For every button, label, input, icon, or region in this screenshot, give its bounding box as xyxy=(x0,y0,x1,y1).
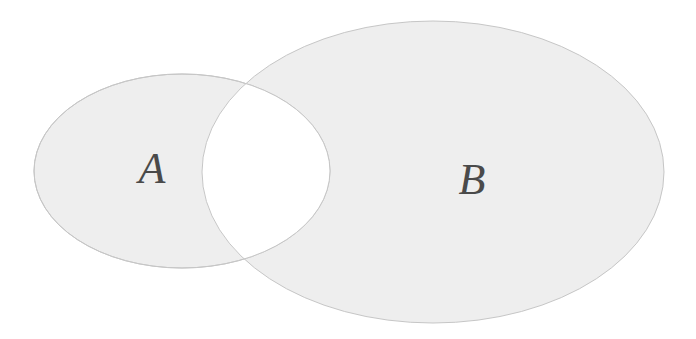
set-b-label: B xyxy=(459,155,486,204)
venn-diagram: A B xyxy=(0,0,696,339)
set-a-label: A xyxy=(136,144,167,193)
